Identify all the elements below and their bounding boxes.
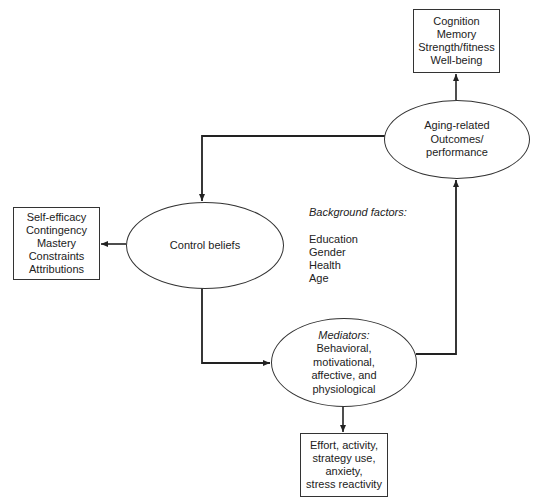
mediators-title: Mediators: <box>318 329 369 343</box>
mediators-line: motivational, <box>313 356 375 370</box>
arrow-aging-to-control <box>202 136 385 201</box>
background-factor-item: Gender <box>309 246 407 259</box>
control-box-line: Mastery <box>37 237 76 250</box>
aging-line: Aging-related <box>424 119 489 133</box>
control-box-line: Self-efficacy <box>27 211 87 224</box>
outcomes-line: Memory <box>437 28 477 41</box>
control-beliefs-box: Self-efficacy Contingency Mastery Constr… <box>13 207 100 280</box>
background-factor-item: Age <box>309 272 407 285</box>
control-box-line: Constraints <box>29 250 85 263</box>
background-factor-item: Health <box>309 259 407 272</box>
background-factors: Background factors: Education Gender Hea… <box>309 206 407 285</box>
outcomes-box: Cognition Memory Strength/fitness Well-b… <box>413 9 500 73</box>
aging-line: Outcomes/ <box>430 133 483 147</box>
outcomes-line: Strength/fitness <box>418 41 494 54</box>
mediators-box-line: anxiety, <box>325 465 362 478</box>
mediators-box-line: strategy use, <box>313 452 376 465</box>
aging-line: performance <box>426 146 488 160</box>
background-factor-item: Education <box>309 233 407 246</box>
outcomes-line: Well-being <box>431 54 483 67</box>
mediators-line: affective, and <box>311 369 376 383</box>
mediators-line: Behavioral, <box>316 342 371 356</box>
aging-outcomes-ellipse: Aging-related Outcomes/ performance <box>384 100 530 179</box>
mediators-ellipse: Mediators: Behavioral, motivational, aff… <box>271 318 417 407</box>
mediators-box: Effort, activity, strategy use, anxiety,… <box>300 433 388 497</box>
outcomes-line: Cognition <box>433 15 479 28</box>
control-beliefs-label: Control beliefs <box>170 239 240 253</box>
mediators-box-line: Effort, activity, <box>310 439 378 452</box>
control-box-line: Attributions <box>29 263 84 276</box>
arrow-control-to-mediators <box>202 288 270 363</box>
arrow-mediators-to-aging <box>416 180 456 354</box>
control-box-line: Contingency <box>26 224 87 237</box>
background-factors-title: Background factors: <box>309 206 407 219</box>
mediators-box-line: stress reactivity <box>306 478 382 491</box>
control-beliefs-ellipse: Control beliefs <box>126 202 284 289</box>
mediators-line: physiological <box>313 383 376 397</box>
